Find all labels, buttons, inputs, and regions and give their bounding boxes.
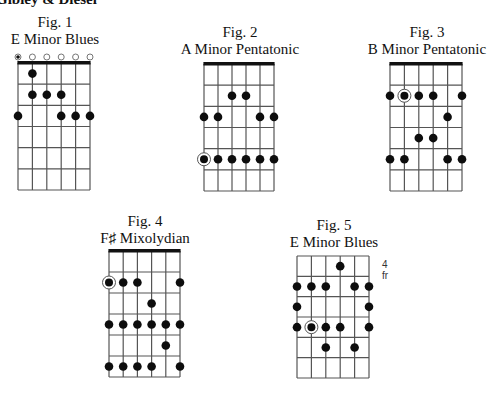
note-dot	[350, 343, 359, 352]
note-dot	[322, 323, 331, 332]
root-note-dot	[307, 323, 315, 331]
note-dot	[365, 323, 374, 332]
note-dot	[307, 282, 316, 291]
fret-position-label: 4 fr	[382, 259, 388, 281]
note-dot	[322, 343, 331, 352]
note-dot	[336, 262, 345, 271]
note-dot	[293, 282, 302, 291]
note-dot	[365, 303, 374, 312]
note-dot	[350, 282, 359, 291]
note-dot	[336, 323, 345, 332]
fretboard-diagram	[0, 0, 500, 400]
note-dot	[322, 282, 331, 291]
note-dot	[293, 323, 302, 332]
note-dot	[365, 282, 374, 291]
note-dot	[293, 303, 302, 312]
